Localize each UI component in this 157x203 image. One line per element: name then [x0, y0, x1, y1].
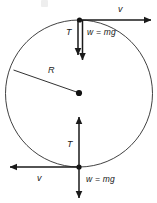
- radius-line: [14, 70, 79, 93]
- weight-top-label: w = mg: [87, 28, 116, 37]
- velocity-top-label: v: [118, 5, 123, 14]
- diagram-vector-graphics: [0, 0, 157, 203]
- center-dot: [76, 90, 82, 96]
- tension-top-label: T: [66, 28, 72, 37]
- velocity-bottom-label: v: [37, 174, 42, 183]
- radius-label: R: [48, 66, 55, 75]
- physics-diagram-canvas: v T w = mg R T v w = mg: [0, 0, 157, 203]
- weight-bottom-label: w = mg: [86, 175, 115, 184]
- tension-bottom-label: T: [67, 140, 73, 149]
